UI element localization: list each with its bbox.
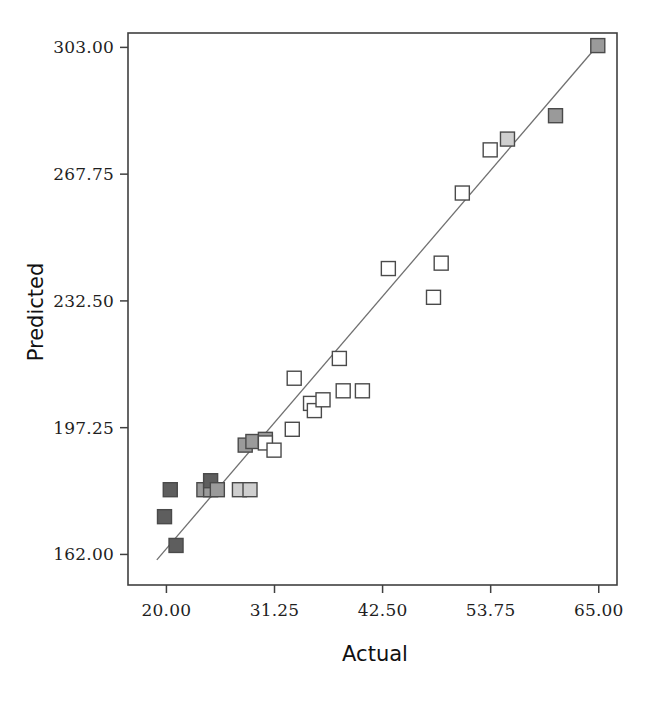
data-point-marker <box>483 143 497 157</box>
y-tick-label: 303.00 <box>53 37 114 57</box>
x-tick-label: 20.00 <box>142 600 192 620</box>
data-point-marker <box>287 371 301 385</box>
data-point-marker <box>163 483 177 497</box>
x-tick-label: 42.50 <box>358 600 408 620</box>
data-point-marker <box>210 483 224 497</box>
y-tick-label: 232.50 <box>53 291 114 311</box>
scatter-plot-figure: 162.00197.25232.50267.75303.00 20.0031.2… <box>0 0 649 703</box>
x-axis-title: Actual <box>342 642 408 666</box>
y-tick-label: 162.00 <box>53 544 114 564</box>
data-point-marker <box>169 538 183 552</box>
data-point-marker <box>549 109 563 123</box>
y-tick-label: 267.75 <box>53 164 114 184</box>
data-point-marker <box>267 443 281 457</box>
x-tick-label: 53.75 <box>466 600 516 620</box>
data-point-marker <box>381 262 395 276</box>
data-point-marker <box>591 39 605 53</box>
axis-ticks <box>120 47 599 593</box>
data-point-marker <box>158 510 172 524</box>
data-point-marker <box>336 384 350 398</box>
y-tick-label: 197.25 <box>53 418 114 438</box>
data-point-marker <box>316 393 330 407</box>
data-point-marker <box>427 290 441 304</box>
x-tick-label: 65.00 <box>574 600 624 620</box>
data-point-marker <box>243 483 257 497</box>
data-point-marker <box>455 186 469 200</box>
data-point-marker <box>332 351 346 365</box>
y-axis-title: Predicted <box>24 263 48 362</box>
data-point-marker <box>285 422 299 436</box>
x-tick-label: 31.25 <box>250 600 300 620</box>
plot-canvas <box>0 0 649 703</box>
data-point-marker <box>355 384 369 398</box>
data-point-marker <box>500 132 514 146</box>
data-point-marker <box>434 256 448 270</box>
